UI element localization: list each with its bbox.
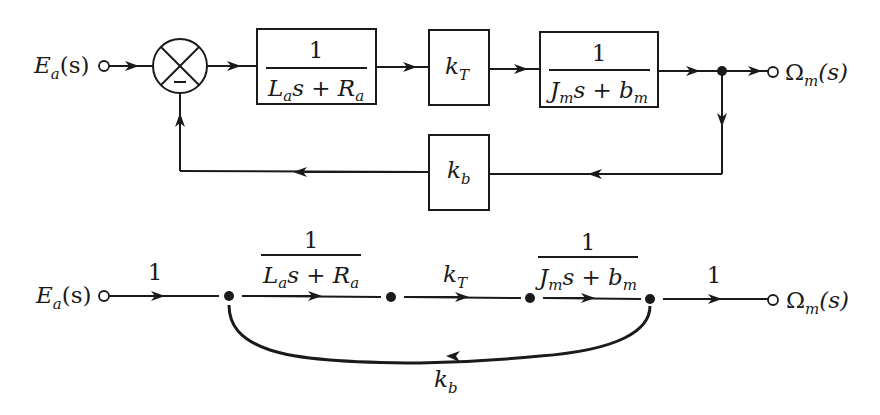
svg-text:1: 1 — [581, 229, 596, 255]
svg-text:Las + Ra: Las + Ra — [262, 262, 359, 292]
sfg-node-2 — [386, 292, 396, 302]
sfg-output-label: Ωm(s) — [786, 287, 849, 318]
sfg-node-4 — [645, 294, 655, 304]
bd-input-label: Ea(s) — [33, 52, 90, 83]
bd-output-terminal — [768, 67, 778, 77]
svg-text:1: 1 — [592, 40, 607, 66]
svg-text:1: 1 — [707, 262, 722, 288]
summing-junction — [153, 39, 207, 93]
svg-text:1: 1 — [304, 227, 319, 253]
sfg-feedback-label: kb — [434, 366, 458, 397]
bd-input-terminal — [99, 61, 109, 71]
svg-text:Las + Ra: Las + Ra — [267, 75, 364, 105]
motor-diagram: Ea(s) 1 Las + Ra kT — [0, 0, 880, 415]
svg-text:1: 1 — [148, 259, 163, 285]
sfg-input-terminal — [99, 291, 109, 301]
signal-flow-graph: Ea(s) 1 1 Las + Ra kT 1 Jms + bm 1 Ωm(s) — [35, 227, 849, 397]
block-torque-constant: kT — [429, 30, 489, 105]
block-back-emf: kb — [429, 135, 489, 210]
block-armature: 1 Las + Ra — [257, 29, 376, 105]
bd-output-label: Ωm(s) — [785, 59, 848, 90]
block-mechanical: 1 Jms + bm — [540, 32, 658, 107]
sfg-input-label: Ea(s) — [35, 282, 92, 313]
sfg-node-1 — [224, 291, 234, 301]
svg-text:Jms + bm: Jms + bm — [535, 264, 637, 294]
block-diagram: Ea(s) 1 Las + Ra kT — [33, 29, 848, 210]
svg-text:1: 1 — [309, 37, 324, 63]
sfg-output-terminal — [768, 295, 778, 305]
svg-text:kT: kT — [443, 261, 468, 292]
sfg-feedback-branch — [229, 305, 650, 363]
sfg-node-3 — [525, 293, 535, 303]
